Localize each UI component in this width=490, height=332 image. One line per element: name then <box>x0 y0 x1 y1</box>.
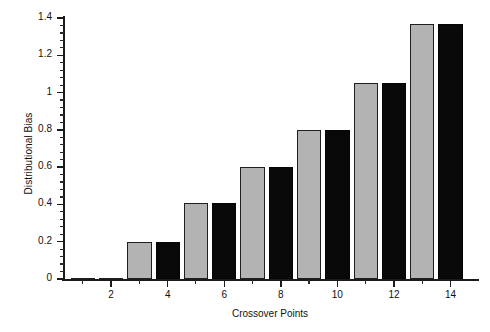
bar <box>240 167 264 279</box>
x-tick-mark <box>393 280 394 287</box>
x-tick-label: 10 <box>317 289 357 300</box>
x-minor-tick-mark <box>308 280 309 284</box>
x-minor-tick-mark <box>82 280 83 284</box>
y-tick-label: 0 <box>4 272 52 283</box>
x-minor-tick-mark <box>195 280 196 284</box>
y-tick-label: 0.4 <box>4 197 52 208</box>
bar <box>99 278 123 279</box>
y-tick-label: 1.2 <box>4 48 52 59</box>
bar <box>382 83 406 279</box>
bar <box>71 278 95 279</box>
bar <box>156 242 180 279</box>
bar-chart-figure: Distributional Bias 00.20.40.60.811.21.4… <box>0 0 490 332</box>
bar <box>438 24 462 279</box>
y-tick-label: 1.4 <box>4 11 52 22</box>
bar <box>127 242 151 279</box>
plot-area <box>63 18 476 279</box>
bar <box>184 203 208 279</box>
bar <box>212 203 236 279</box>
x-axis-title: Crossover Points <box>60 308 480 319</box>
bar <box>269 167 293 279</box>
x-tick-label: 8 <box>261 289 301 300</box>
x-minor-tick-mark <box>365 280 366 284</box>
x-minor-tick-mark <box>252 280 253 284</box>
x-axis-line <box>62 279 479 281</box>
x-tick-label: 6 <box>204 289 244 300</box>
x-tick-mark <box>337 280 338 287</box>
x-minor-tick-mark <box>422 280 423 284</box>
x-tick-mark <box>110 280 111 287</box>
bar <box>354 83 378 279</box>
x-tick-mark <box>280 280 281 287</box>
x-tick-label: 2 <box>91 289 131 300</box>
x-tick-mark <box>224 280 225 287</box>
bar <box>410 24 434 279</box>
y-tick-label: 0.2 <box>4 235 52 246</box>
bar <box>325 130 349 279</box>
y-tick-label: 0.6 <box>4 160 52 171</box>
y-tick-label: 0.8 <box>4 123 52 134</box>
x-tick-label: 12 <box>374 289 414 300</box>
x-minor-tick-mark <box>139 280 140 284</box>
x-tick-label: 4 <box>148 289 188 300</box>
x-tick-mark <box>167 280 168 287</box>
x-tick-label: 14 <box>431 289 471 300</box>
bar <box>297 130 321 279</box>
x-tick-mark <box>450 280 451 287</box>
y-tick-label: 1 <box>4 86 52 97</box>
